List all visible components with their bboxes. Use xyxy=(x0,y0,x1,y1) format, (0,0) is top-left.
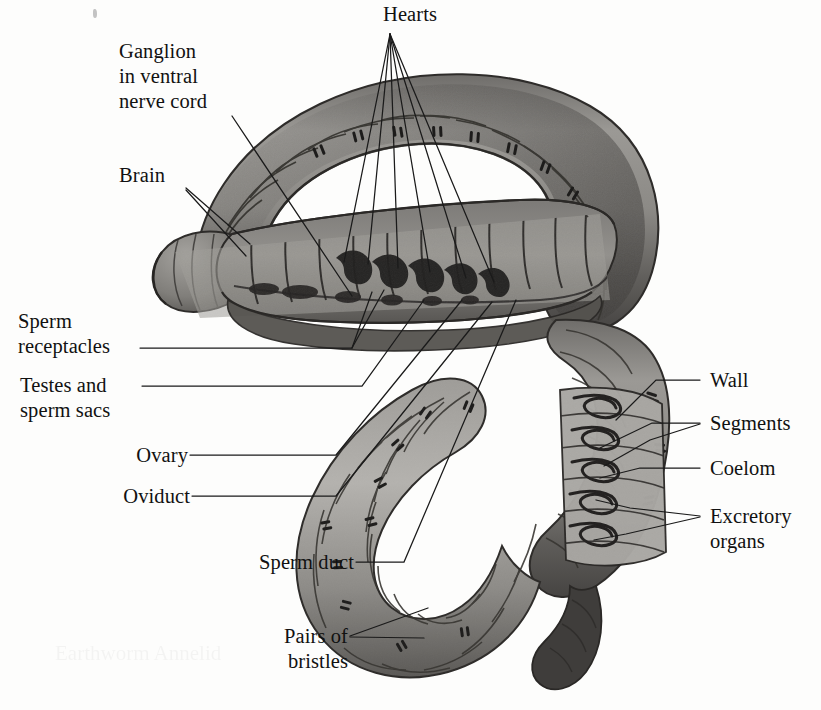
label-excretory-organs: Excretory organs xyxy=(710,504,792,554)
label-wall: Wall xyxy=(710,368,749,393)
label-brain: Brain xyxy=(119,163,165,188)
label-oviduct: Oviduct xyxy=(0,484,190,509)
label-sperm-duct: Sperm duct xyxy=(0,550,354,575)
label-sperm-receptacles: Sperm receptacles xyxy=(18,309,110,359)
label-ganglion: Ganglion in ventral nerve cord xyxy=(119,39,207,114)
label-coelom: Coelom xyxy=(710,456,776,481)
label-hearts: Hearts xyxy=(383,2,437,27)
label-testes: Testes and sperm sacs xyxy=(20,373,110,423)
label-segments: Segments xyxy=(710,411,791,436)
label-ovary: Ovary xyxy=(0,443,188,468)
label-pairs-of-bristles: Pairs of bristles xyxy=(0,624,348,674)
figure-canvas: Earthworm Annelid Hearts Ganglion in ven… xyxy=(0,0,821,710)
page-speck-artifact xyxy=(93,9,97,18)
